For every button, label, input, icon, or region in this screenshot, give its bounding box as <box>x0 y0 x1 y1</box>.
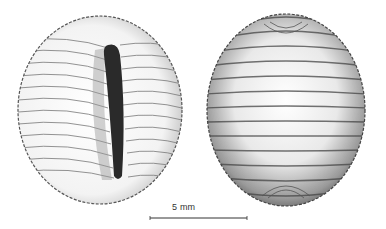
scale-bar-label: 5 mm <box>172 202 195 212</box>
dorsal-view-shell <box>205 14 367 206</box>
shell-illustration <box>0 0 386 229</box>
ventral-view-shell <box>18 16 182 204</box>
scale-bar <box>150 216 247 220</box>
